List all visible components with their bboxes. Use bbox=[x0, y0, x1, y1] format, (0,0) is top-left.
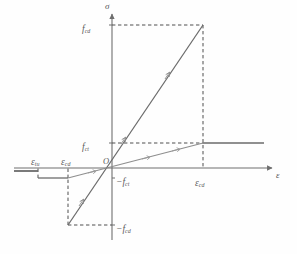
plot-canvas bbox=[0, 0, 297, 254]
f-cd-positive-label: fcd bbox=[82, 19, 90, 35]
eps-cd-negative-subscript: cd bbox=[65, 161, 71, 167]
epsilon-axis-label: ε bbox=[276, 171, 280, 180]
eps-cd-positive-label: εcd bbox=[195, 173, 204, 189]
f-cd-positive-subscript: cd bbox=[85, 28, 91, 34]
f-ct-positive-label: fct bbox=[82, 137, 89, 153]
f-ct-negative-subscript: ct bbox=[125, 181, 129, 187]
eps-cd-negative-label: εcd bbox=[61, 152, 70, 168]
arrow-marker-icon bbox=[142, 156, 150, 160]
eps-tu-label: εtu bbox=[31, 152, 39, 168]
arrow-marker-icon bbox=[172, 148, 180, 152]
f-cd-negative-subscript: cd bbox=[125, 228, 131, 234]
elastic-branch-group bbox=[68, 25, 203, 225]
guide-line-group bbox=[38, 25, 203, 225]
f-ct-positive-subscript: ct bbox=[85, 146, 89, 152]
sigma-axis-label: σ bbox=[105, 2, 109, 11]
origin-label: O bbox=[103, 157, 109, 166]
f-cd-negative-label: −fcd bbox=[116, 219, 131, 235]
eps-cd-positive-subscript: cd bbox=[199, 182, 205, 188]
elastic-branch-line bbox=[68, 25, 203, 225]
arrow-marker-icon bbox=[88, 170, 96, 174]
eps-tu-subscript: tu bbox=[35, 161, 40, 167]
stress-strain-figure: σ ε O fcd fct −fct −fcd εtu εcd εcd bbox=[0, 0, 297, 254]
axis-group bbox=[14, 14, 272, 240]
f-ct-negative-label: −fct bbox=[116, 172, 129, 188]
plateau-group bbox=[14, 143, 264, 178]
